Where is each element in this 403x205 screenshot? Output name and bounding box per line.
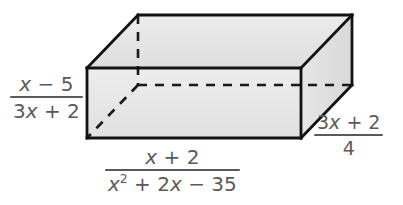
fraction-bar xyxy=(10,96,83,98)
height-dimension-label: x − 5 3x + 2 xyxy=(10,74,83,121)
variable-x: x xyxy=(19,72,31,96)
fraction-numerator: x − 5 xyxy=(10,74,83,95)
fraction-width: x + 2 x2 + 2x − 35 xyxy=(105,147,240,194)
fraction-denominator: 3x + 2 xyxy=(10,100,83,121)
denominator-rest: − 35 xyxy=(182,172,237,196)
variable-x: x xyxy=(108,172,120,196)
numerator-rest: − 5 xyxy=(31,72,73,96)
fraction-denominator: 4 xyxy=(314,138,383,158)
depth-dimension-label: 3x + 2 4 xyxy=(314,113,383,158)
fraction-numerator: 3x + 2 xyxy=(314,113,383,133)
coefficient: 3 xyxy=(317,111,329,133)
fraction-denominator: x2 + 2x − 35 xyxy=(105,173,240,194)
numerator-rest: + 2 xyxy=(157,145,199,169)
prism-face-front xyxy=(87,68,301,138)
variable-x: x xyxy=(26,99,38,123)
figure-canvas: x − 5 3x + 2 x + 2 x2 + 2x − 35 3x + 2 4 xyxy=(0,0,403,205)
fraction-depth: 3x + 2 4 xyxy=(314,113,383,158)
denominator-rest: + 2 xyxy=(38,99,80,123)
variable-x: x xyxy=(170,172,182,196)
denominator-mid: + 2 xyxy=(128,172,170,196)
exponent-two: 2 xyxy=(120,171,128,186)
coefficient: 3 xyxy=(13,99,26,123)
length-dimension-label: x + 2 x2 + 2x − 35 xyxy=(105,147,240,194)
numerator-rest: + 2 xyxy=(340,111,380,133)
fraction-numerator: x + 2 xyxy=(105,147,240,168)
fraction-height: x − 5 3x + 2 xyxy=(10,74,83,121)
variable-x: x xyxy=(329,111,340,133)
variable-x: x xyxy=(145,145,157,169)
fraction-bar xyxy=(314,134,383,136)
